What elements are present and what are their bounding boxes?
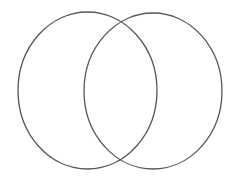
left-set-ellipse bbox=[18, 12, 157, 169]
venn-svg bbox=[0, 0, 233, 183]
venn-diagram bbox=[0, 0, 233, 183]
right-set-ellipse bbox=[84, 13, 222, 169]
